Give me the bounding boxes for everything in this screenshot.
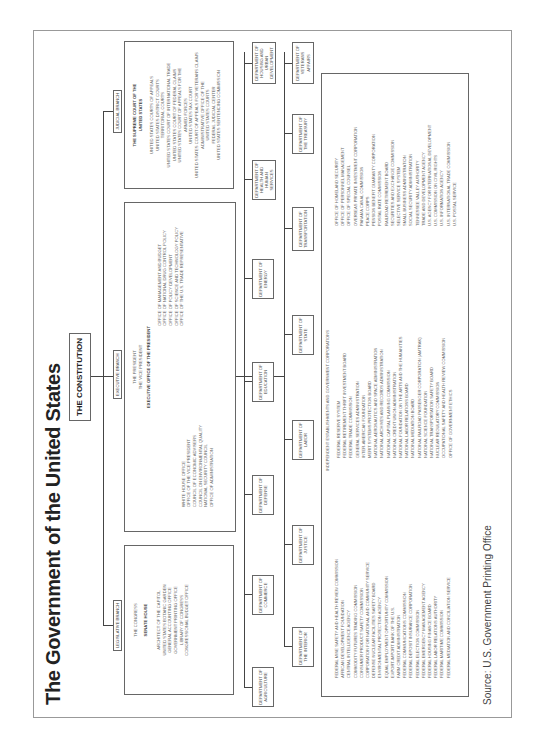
eop: EXECUTIVE OFFICE OF THE PRESIDENT bbox=[146, 203, 152, 531]
constitution-box: THE CONSTITUTION bbox=[69, 333, 91, 421]
source-caption: Source: U.S. Government Printing Office bbox=[482, 525, 493, 705]
dept-tick bbox=[244, 179, 252, 180]
dept-tick bbox=[244, 278, 252, 279]
executive-branch-label: EXECUTIVE BRANCH bbox=[113, 350, 122, 399]
dept-tick bbox=[244, 594, 252, 595]
judicial-branch-label: JUDICIAL BRANCH bbox=[113, 90, 122, 133]
eop-item: OFFICE OF THE U.S. TRADE REPRESENTATIVE bbox=[179, 227, 185, 326]
vice-president: THE VICE PRESIDENT bbox=[138, 203, 144, 531]
dept-tick bbox=[244, 687, 252, 688]
connector-exec-down bbox=[236, 376, 244, 377]
jud-item: UNITED STATES SENTENCING COMMISSION bbox=[216, 42, 222, 188]
jud-item: UNITED STATES COURT OF APPEALS FOR VETER… bbox=[194, 42, 200, 188]
dept-tick bbox=[284, 439, 292, 440]
executive-box: THE PRESIDENT THE VICE PRESIDENT EXECUTI… bbox=[124, 202, 236, 532]
dept-education: DEPARTMENT OFEDUCATION bbox=[252, 362, 274, 402]
connector-branches bbox=[103, 112, 104, 626]
dept-tick bbox=[244, 63, 252, 64]
eop-item: OFFICE OF ADMINISTRATION bbox=[209, 425, 215, 507]
dept-transportation: DEPARTMENT OFTRANSPORTATION bbox=[292, 207, 314, 251]
legislative-box: THE CONGRESS SENATE HOUSE ARCHITECT OF T… bbox=[124, 545, 234, 695]
congress: THE CONGRESS bbox=[133, 546, 139, 694]
supreme-court-2: UNITED STATES bbox=[138, 42, 144, 188]
independent-col2: FEDERAL RESERVE SYSTEMFEDERAL RETIREMENT… bbox=[336, 337, 454, 458]
independent-col1: FEDERAL MINE SAFETY AND HEALTH REVIEW CO… bbox=[334, 559, 452, 678]
connector-constitution bbox=[91, 376, 103, 377]
dept-commerce: DEPARTMENT OFCOMMERCE bbox=[252, 575, 274, 615]
dept-tick bbox=[284, 544, 292, 545]
dept-energy: DEPARTMENT OFENERGY bbox=[252, 259, 274, 299]
dept-tick bbox=[284, 63, 292, 64]
dept-treasury: DEPARTMENT OFTHE TREASURY bbox=[292, 114, 314, 154]
dept-defense: DEPARTMENT OFDEFENSE bbox=[252, 475, 274, 515]
independent-agencies-box: INDEPENDENT ESTABLISHMENTS AND GOVERNMEN… bbox=[321, 73, 469, 697]
dept-tick bbox=[284, 228, 292, 229]
dept-justice: DEPARTMENT OFJUSTICE bbox=[292, 525, 314, 565]
judicial-list: UNITED STATES COURTS OF APPEALS UNITED S… bbox=[149, 42, 222, 188]
dept-tick bbox=[284, 646, 292, 647]
dept-agriculture: DEPARTMENT OFAGRICULTURE bbox=[252, 667, 274, 707]
dept-va: DEPARTMENT OFVETERANS AFFAIRS bbox=[292, 42, 314, 84]
judicial-box: THE SUPREME COURT OF THE UNITED STATES U… bbox=[124, 41, 234, 189]
dept-hud: DEPARTMENT OFHOUSING AND URBANDEVELOPMEN… bbox=[252, 42, 276, 84]
legislative-branch-label: LEGISLATIVE BRANCH bbox=[113, 600, 122, 651]
dept-tick bbox=[284, 334, 292, 335]
independent-col3: OFFICE OF HOMELAND SECURITYOFFICE OF PER… bbox=[334, 125, 458, 226]
dept-tick bbox=[284, 133, 292, 134]
connector-dept-row1 bbox=[244, 52, 245, 688]
dept-interior: DEPARTMENT OFTHE INTERIOR bbox=[292, 627, 314, 667]
connector-dept-row2 bbox=[284, 52, 285, 647]
legislative-list: ARCHITECT OF THE CAPITOL UNITED STATES B… bbox=[156, 546, 190, 694]
dept-tick bbox=[244, 381, 252, 382]
independent-header: INDEPENDENT ESTABLISHMENTS AND GOVERNMEN… bbox=[325, 330, 331, 471]
eop-right-list: OFFICE OF MANAGEMENT AND BUDGET OFFICE O… bbox=[157, 227, 215, 326]
dept-hhs: DEPARTMENT OFHEALTH AND HUMANSERVICES bbox=[252, 160, 276, 200]
leg-item: CONGRESSIONAL BUDGET OFFICE bbox=[184, 546, 190, 694]
page-title: The Government of the United States bbox=[42, 363, 65, 705]
eop-item: COUNCIL OF ECONOMIC ADVISERS bbox=[192, 425, 198, 507]
dept-state: DEPARTMENT OFSTATE bbox=[292, 315, 314, 355]
dept-tick bbox=[244, 494, 252, 495]
eop-left-list: WHITE HOUSE OFFICE OFFICE OF THE VICE PR… bbox=[181, 425, 215, 507]
jud-item: UNITED STATES COURT OF INTERNATIONAL TRA… bbox=[166, 42, 172, 188]
chambers: SENATE HOUSE bbox=[143, 546, 149, 694]
org-chart-page: The Government of the United States THE … bbox=[33, 30, 512, 718]
dept-labor: DEPARTMENT OFLABOR bbox=[292, 420, 314, 460]
